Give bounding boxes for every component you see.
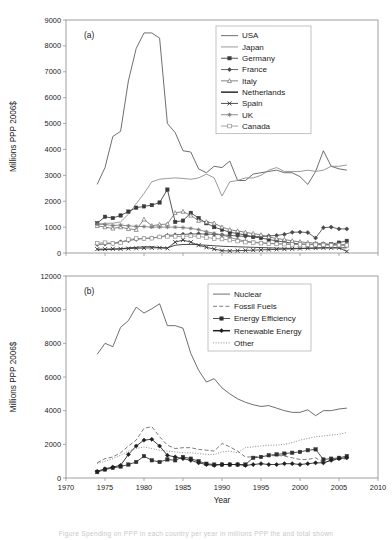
data-series	[97, 427, 347, 463]
y-axis-title: Millions PPP 2006$	[9, 101, 18, 172]
x-axis-title: Year	[214, 496, 231, 505]
y-tick-label: 6000	[45, 373, 61, 382]
legend-item-label: Netherlands	[242, 88, 285, 97]
legend-item-label: Japan	[242, 43, 264, 52]
x-tick-label: 1975	[97, 483, 113, 492]
chart-panel-a: 0100020003000400050006000700080009000Mil…	[0, 0, 392, 262]
y-tick-label: 10000	[40, 305, 61, 314]
y-tick-label: 4000	[45, 145, 61, 154]
panel-tag: (b)	[84, 286, 94, 296]
y-tick-label: 0	[57, 474, 61, 483]
data-series	[96, 448, 349, 474]
y-tick-label: 6000	[45, 93, 61, 102]
x-tick-label: 2010	[370, 483, 386, 492]
data-series	[95, 209, 349, 247]
legend-item-label: Fossil Fuels	[234, 302, 277, 311]
y-axis-title: Millions PPP 2006$	[9, 341, 18, 412]
series-line	[97, 165, 347, 225]
legend-item-label: Italy	[242, 77, 257, 86]
x-tick-label: 1985	[175, 483, 191, 492]
y-tick-label: 7000	[45, 67, 61, 76]
y-tick-label: 3000	[45, 171, 61, 180]
panel-b-svg: 0200040006000800010000120001970197519801…	[0, 262, 392, 524]
legend-item-label: Germany	[242, 54, 275, 63]
legend-item-label: USA	[242, 31, 259, 40]
y-tick-label: 9000	[45, 16, 61, 25]
x-tick-label: 2000	[292, 483, 308, 492]
y-tick-label: 5000	[45, 119, 61, 128]
legend-item-label: Nuclear	[234, 290, 262, 299]
legend-item-label: Renewable Energy	[234, 327, 302, 336]
legend-item-label: Canada	[242, 122, 271, 131]
x-tick-label: 1980	[136, 483, 152, 492]
y-tick-label: 8000	[45, 339, 61, 348]
legend-item-label: UK	[242, 111, 254, 120]
x-tick-label: 2005	[331, 483, 347, 492]
x-tick-label: 1995	[253, 483, 269, 492]
chart-legend: NuclearFossil FuelsEnergy EfficiencyRene…	[208, 284, 311, 351]
series-line	[97, 427, 347, 463]
legend-item-label: Spain	[242, 99, 262, 108]
y-tick-label: 2000	[45, 197, 61, 206]
chart-panel-b: 0200040006000800010000120001970197519801…	[0, 262, 392, 524]
y-tick-label: 4000	[45, 406, 61, 415]
figure-root: 0100020003000400050006000700080009000Mil…	[0, 0, 392, 540]
data-series	[97, 165, 347, 225]
legend-item-label: France	[242, 65, 267, 74]
x-tick-label: 1990	[214, 483, 230, 492]
panel-tag: (a)	[84, 30, 94, 40]
legend-item-label: Other	[234, 339, 254, 348]
panel-a-svg: 0100020003000400050006000700080009000Mil…	[0, 0, 392, 262]
y-tick-label: 0	[57, 249, 61, 258]
y-tick-label: 2000	[45, 440, 61, 449]
chart-legend: USAJapanGermanyFranceItalyNetherlandsSpa…	[216, 26, 311, 134]
y-tick-label: 8000	[45, 41, 61, 50]
y-tick-label: 1000	[45, 223, 61, 232]
legend-item-label: Energy Efficiency	[234, 314, 296, 323]
figure-caption: Figure Spending on PPP in each country p…	[0, 528, 392, 540]
x-tick-label: 1970	[58, 483, 74, 492]
data-series	[95, 437, 349, 473]
y-tick-label: 12000	[40, 272, 61, 281]
